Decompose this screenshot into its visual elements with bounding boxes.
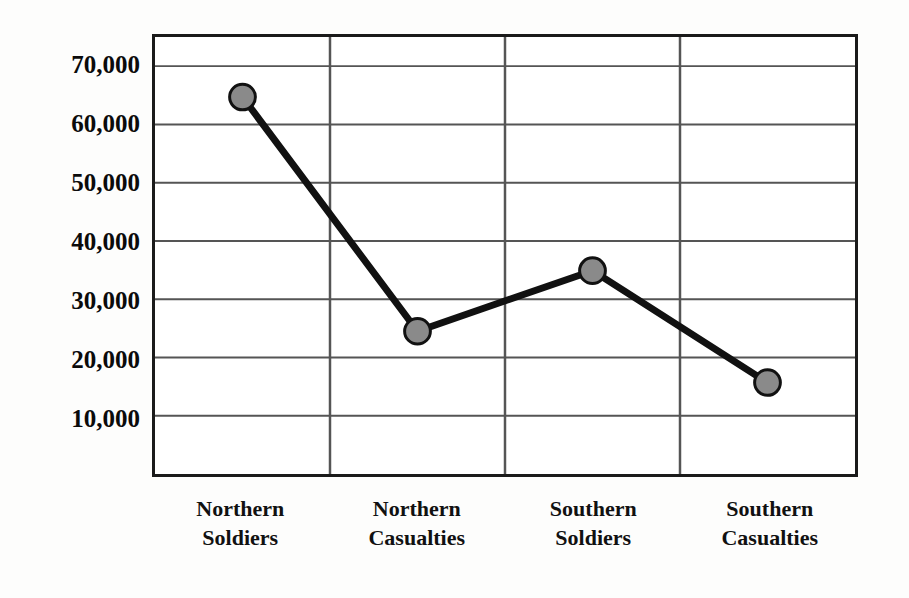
- x-axis-category-label: NorthernCasualties: [329, 494, 506, 552]
- data-point-marker: Southern Soldiers: 34,900: [580, 258, 606, 284]
- series-polyline: [243, 97, 768, 383]
- x-axis-category-label: SouthernCasualties: [682, 494, 859, 552]
- y-axis-tick-labels: 70,00060,00050,00040,00030,00020,00010,0…: [12, 0, 140, 598]
- data-point-marker: Northern Soldiers: 64,700: [230, 84, 256, 110]
- x-axis-category-label-line2: Casualties: [329, 523, 506, 552]
- x-axis-category-labels: NorthernSoldiersNorthernCasualtiesSouthe…: [152, 494, 858, 584]
- x-axis-category-label-line1: Northern: [152, 494, 329, 523]
- x-axis-category-label-line2: Soldiers: [152, 523, 329, 552]
- x-axis-category-label-line2: Casualties: [682, 523, 859, 552]
- x-axis-category-label-line2: Soldiers: [505, 523, 682, 552]
- x-axis-category-label-line1: Southern: [682, 494, 859, 523]
- y-axis-tick-label: 50,000: [20, 169, 140, 194]
- x-axis-category-label: SouthernSoldiers: [505, 494, 682, 552]
- y-axis-tick-label: 70,000: [20, 51, 140, 76]
- x-axis-category-label-line1: Northern: [329, 494, 506, 523]
- data-point-marker: Northern Casualties: 24,500: [405, 318, 431, 344]
- y-axis-tick-label: 20,000: [20, 346, 140, 371]
- x-axis-category-label-line1: Southern: [505, 494, 682, 523]
- chart-figure: 70,00060,00050,00040,00030,00020,00010,0…: [0, 0, 909, 598]
- y-axis-tick-label: 40,000: [20, 228, 140, 253]
- y-axis-tick-label: 60,000: [20, 110, 140, 135]
- data-series-line: Northern Soldiers: 64,700Northern Casual…: [155, 37, 855, 474]
- y-axis-tick-label: 30,000: [20, 287, 140, 312]
- x-axis-category-label: NorthernSoldiers: [152, 494, 329, 552]
- data-point-marker: Southern Casualties: 15,700: [755, 370, 781, 396]
- y-axis-tick-label: 10,000: [20, 405, 140, 430]
- plot-area: Northern Soldiers: 64,700Northern Casual…: [152, 34, 858, 477]
